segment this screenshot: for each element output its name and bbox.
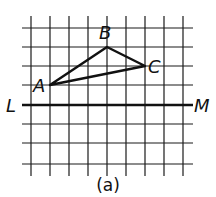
label-b: B bbox=[99, 22, 111, 43]
label-m: M bbox=[194, 95, 210, 116]
reflection-grid-diagram: L M A B C (a) bbox=[0, 0, 216, 197]
figure-caption: (a) bbox=[96, 175, 120, 195]
label-l: L bbox=[6, 95, 16, 116]
label-c: C bbox=[148, 56, 161, 77]
label-a: A bbox=[32, 75, 45, 96]
